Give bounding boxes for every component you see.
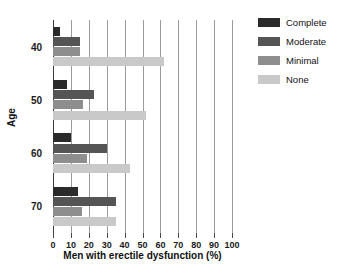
y-tick-label: 40 xyxy=(31,41,42,52)
legend-swatch-complete xyxy=(258,18,280,27)
bar-moderate-60 xyxy=(53,144,107,153)
gridline xyxy=(143,20,144,233)
x-tick-mark xyxy=(107,233,108,238)
x-tick-mark xyxy=(178,233,179,238)
y-tick-label: 60 xyxy=(31,148,42,159)
gridline xyxy=(196,20,197,233)
legend-label: Moderate xyxy=(286,37,326,47)
x-tick-mark xyxy=(196,233,197,238)
bar-minimal-70 xyxy=(53,207,82,216)
legend-swatch-minimal xyxy=(258,56,280,65)
chart-figure: 010203040506070809010040506070 Men with … xyxy=(0,0,348,274)
x-tick-label: 30 xyxy=(102,240,112,250)
x-tick-mark xyxy=(232,233,233,238)
x-tick-mark xyxy=(125,233,126,238)
legend-item-moderate[interactable]: Moderate xyxy=(258,36,346,47)
bar-complete-50 xyxy=(53,80,67,89)
legend-label: None xyxy=(286,75,309,85)
x-tick-label: 70 xyxy=(173,240,183,250)
bar-moderate-70 xyxy=(53,197,116,206)
bar-complete-60 xyxy=(53,133,71,142)
x-tick-label: 100 xyxy=(224,240,239,250)
chart-legend: CompleteModerateMinimalNone xyxy=(258,17,346,93)
bar-minimal-40 xyxy=(53,47,80,56)
x-tick-label: 20 xyxy=(84,240,94,250)
x-tick-label: 40 xyxy=(120,240,130,250)
x-axis-label: Men with erectile dysfunction (%) xyxy=(53,250,232,261)
bar-minimal-60 xyxy=(53,154,87,163)
legend-item-minimal[interactable]: Minimal xyxy=(258,55,346,66)
bar-none-40 xyxy=(53,57,164,66)
gridline xyxy=(160,20,161,233)
bar-complete-70 xyxy=(53,187,78,196)
bar-complete-40 xyxy=(53,27,60,36)
x-tick-label: 50 xyxy=(137,240,147,250)
bar-none-70 xyxy=(53,217,116,226)
x-tick-mark xyxy=(214,233,215,238)
y-tick-label: 70 xyxy=(31,201,42,212)
bar-none-50 xyxy=(53,111,146,120)
bar-moderate-40 xyxy=(53,37,80,46)
x-tick-mark xyxy=(160,233,161,238)
y-axis-label: Age xyxy=(6,108,17,127)
x-tick-label: 10 xyxy=(66,240,76,250)
x-tick-label: 60 xyxy=(155,240,165,250)
gridline xyxy=(125,20,126,233)
legend-item-none[interactable]: None xyxy=(258,74,346,85)
legend-label: Complete xyxy=(286,18,327,28)
legend-item-complete[interactable]: Complete xyxy=(258,17,346,28)
x-tick-mark xyxy=(143,233,144,238)
y-tick-label: 50 xyxy=(31,94,42,105)
x-tick-mark xyxy=(89,233,90,238)
bar-moderate-50 xyxy=(53,90,94,99)
x-tick-mark xyxy=(53,233,54,238)
x-tick-label: 80 xyxy=(191,240,201,250)
x-tick-label: 0 xyxy=(50,240,55,250)
gridline xyxy=(178,20,179,233)
x-tick-label: 90 xyxy=(209,240,219,250)
legend-swatch-none xyxy=(258,75,280,84)
gridline xyxy=(232,20,233,233)
legend-swatch-moderate xyxy=(258,37,280,46)
x-tick-mark xyxy=(71,233,72,238)
plot-area: 010203040506070809010040506070 xyxy=(53,20,232,233)
bar-none-60 xyxy=(53,164,130,173)
legend-label: Minimal xyxy=(286,56,319,66)
gridline xyxy=(214,20,215,233)
bar-minimal-50 xyxy=(53,100,83,109)
